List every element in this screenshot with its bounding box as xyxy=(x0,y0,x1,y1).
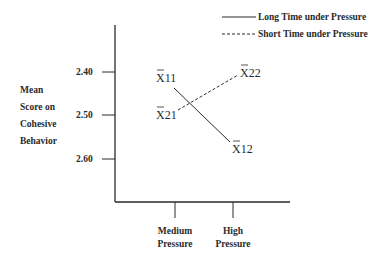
y-axis-label: Mean Score on Cohesive Behavior xyxy=(20,85,58,146)
legend-long-label: Long Time under Pressure xyxy=(258,12,366,22)
svg-text:Cohesive: Cohesive xyxy=(20,119,56,129)
svg-text:Mean: Mean xyxy=(20,85,44,95)
y-tick-250: 2.50 xyxy=(76,110,93,120)
x-cat-medium-2: Pressure xyxy=(157,239,192,249)
svg-text:Score on: Score on xyxy=(20,102,56,112)
svg-text:X21: X21 xyxy=(156,108,177,122)
legend: Long Time under Pressure Short Time unde… xyxy=(222,12,368,39)
x-cat-medium-1: Medium xyxy=(158,226,192,236)
x-ticks: Medium Pressure High Pressure xyxy=(157,202,250,249)
point-x12: X12 xyxy=(232,141,253,156)
series-short-line xyxy=(178,75,238,110)
svg-text:X22: X22 xyxy=(240,66,261,80)
y-tick-260: 2.60 xyxy=(76,154,93,164)
legend-short-label: Short Time under Pressure xyxy=(258,29,368,39)
interaction-chart: Long Time under Pressure Short Time unde… xyxy=(0,0,385,261)
point-x22: X22 xyxy=(240,65,261,80)
svg-text:X11: X11 xyxy=(156,71,176,85)
point-x11: X11 xyxy=(156,70,176,85)
svg-text:X12: X12 xyxy=(232,142,253,156)
y-tick-240: 2.40 xyxy=(76,67,93,77)
x-cat-high-1: High xyxy=(223,226,244,236)
x-cat-high-2: Pressure xyxy=(215,239,250,249)
point-x21: X21 xyxy=(156,107,177,122)
svg-text:Behavior: Behavior xyxy=(20,136,58,146)
y-ticks: 2.40 2.50 2.60 xyxy=(76,67,115,164)
